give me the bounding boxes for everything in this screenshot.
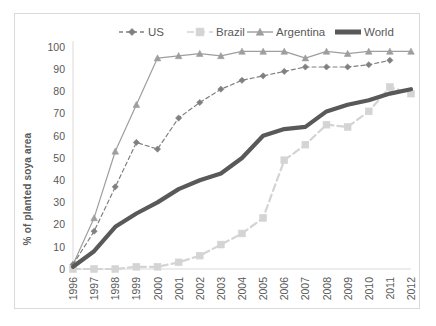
y-tick-label: 70 xyxy=(53,107,65,119)
x-tick-label: 2010 xyxy=(363,277,375,301)
y-tick-label: 90 xyxy=(53,63,65,75)
x-tick-label: 1997 xyxy=(88,277,100,301)
x-tick-label: 1996 xyxy=(67,277,79,301)
data-point-marker xyxy=(175,259,182,266)
x-tick-label: 2001 xyxy=(173,277,185,301)
y-tick-label: 10 xyxy=(53,241,65,253)
chart-container: USBrazilArgentinaWorld 01020304050607080… xyxy=(14,13,420,309)
data-point-marker xyxy=(112,266,119,273)
y-tick-label: 0 xyxy=(59,263,65,275)
y-tick-label: 40 xyxy=(53,174,65,186)
data-point-marker xyxy=(154,263,161,270)
x-tick-label: 1999 xyxy=(130,277,142,301)
x-tick-label: 2011 xyxy=(384,277,396,300)
legend-label: World xyxy=(364,26,394,38)
data-point-marker xyxy=(365,108,372,115)
data-point-marker xyxy=(196,252,203,259)
legend-label: Brazil xyxy=(216,26,245,38)
data-point-marker xyxy=(302,141,309,148)
data-point-marker xyxy=(281,157,288,164)
y-tick-label: 100 xyxy=(47,41,65,53)
soya-area-line-chart: USBrazilArgentinaWorld 01020304050607080… xyxy=(15,14,419,308)
legend-label: US xyxy=(148,26,164,38)
data-point-marker xyxy=(217,241,224,248)
legend-label: Argentina xyxy=(276,26,326,38)
x-axis: 1996199719981999200020012002200320042005… xyxy=(67,277,417,301)
x-tick-label: 2007 xyxy=(299,277,311,301)
data-point-marker xyxy=(323,121,330,128)
data-point-marker xyxy=(133,263,140,270)
x-tick-label: 2000 xyxy=(152,277,164,301)
x-tick-label: 2005 xyxy=(257,277,269,301)
x-tick-label: 1998 xyxy=(109,277,121,301)
y-tick-label: 30 xyxy=(53,196,65,208)
data-point-marker xyxy=(239,230,246,237)
data-point-marker xyxy=(260,215,267,222)
x-tick-label: 2008 xyxy=(321,277,333,301)
x-tick-label: 2002 xyxy=(194,277,206,301)
data-point-marker xyxy=(196,28,204,36)
data-point-marker xyxy=(386,84,393,91)
y-tick-label: 60 xyxy=(53,130,65,142)
x-tick-label: 2009 xyxy=(342,277,354,301)
x-tick-label: 2006 xyxy=(278,277,290,301)
y-tick-label: 20 xyxy=(53,218,65,230)
data-point-marker xyxy=(344,124,351,131)
y-axis-title: % of planted soya area xyxy=(22,132,33,245)
y-tick-label: 80 xyxy=(53,85,65,97)
x-tick-label: 2003 xyxy=(215,277,227,301)
data-point-marker xyxy=(91,266,98,273)
x-tick-label: 2012 xyxy=(405,277,417,301)
y-tick-label: 50 xyxy=(53,152,65,164)
x-tick-label: 2004 xyxy=(236,277,248,301)
